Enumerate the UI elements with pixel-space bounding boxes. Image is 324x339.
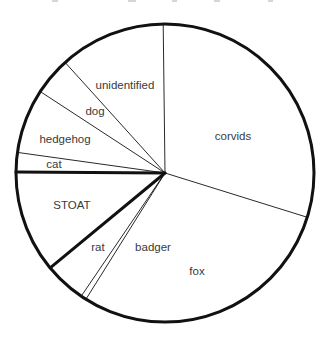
label-corvids: corvids (215, 130, 252, 142)
label-dog: dog (85, 105, 104, 117)
slice-boundary-line (16, 172, 165, 173)
slice-boundary-line (50, 173, 165, 268)
label-stoat: STOAT (53, 199, 90, 211)
label-fox: fox (189, 265, 205, 277)
slice-boundary-line (86, 173, 165, 299)
label-hedgehog: hedgehog (39, 133, 90, 145)
slice-labels: corvids unidentified dog hedgehog cat ST… (39, 79, 251, 277)
slice-boundary-line (81, 173, 165, 296)
slice-boundary-line (17, 152, 165, 173)
pie-chart: corvids unidentified dog hedgehog cat ST… (0, 0, 324, 339)
label-cat: cat (46, 158, 62, 170)
label-badger: badger (135, 241, 171, 253)
label-rat: rat (91, 241, 105, 253)
slice-boundary-line (165, 173, 307, 217)
label-unidentified: unidentified (96, 79, 155, 91)
slice-boundary-line (163, 24, 165, 173)
